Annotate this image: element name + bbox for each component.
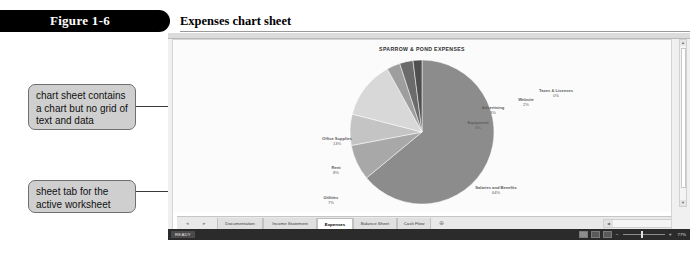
- sheet-tab-strip[interactable]: ◂ ▸ Documentation Income Statement Expen…: [177, 216, 672, 229]
- pie-label-office-supplies: Office Supplies13%: [311, 136, 363, 146]
- zoom-slider-thumb[interactable]: [641, 231, 643, 238]
- sheet-nav-prev-icon[interactable]: ◂: [186, 219, 189, 228]
- horizontal-scrollbar[interactable]: ◀: [603, 219, 672, 228]
- scroll-up-icon[interactable]: ▲: [680, 40, 686, 46]
- excel-window: SPARROW & POND EXPENSES Taxes & Licenses…: [168, 33, 690, 240]
- sheet-tab-documentation[interactable]: Documentation: [217, 218, 263, 229]
- pie-label-rent: Rent8%: [321, 165, 351, 175]
- sheet-tab-balance-sheet[interactable]: Balance Sheet: [353, 218, 397, 229]
- pie-label-advertising: Advertising3%: [473, 105, 513, 115]
- scroll-down-icon[interactable]: ▼: [680, 200, 686, 206]
- callout-chart-sheet: chart sheet contains a chart but no grid…: [28, 84, 136, 130]
- status-bar: READY − + 77%: [168, 229, 690, 240]
- sheet-nav-arrows[interactable]: ◂ ▸: [179, 219, 213, 228]
- normal-view-button[interactable]: [579, 231, 588, 238]
- page-break-view-button[interactable]: [603, 231, 612, 238]
- callout-sheet-tab: sheet tab for the active worksheet: [28, 180, 136, 213]
- chart-plot-region: SPARROW & POND EXPENSES Taxes & Licenses…: [173, 40, 671, 212]
- figure-header: Figure 1-6 Expenses chart sheet: [0, 10, 690, 32]
- zoom-slider[interactable]: [623, 234, 665, 235]
- zoom-out-button[interactable]: −: [615, 229, 620, 240]
- sheet-tab-income-statement[interactable]: Income Statement: [263, 218, 317, 229]
- pie-label-utilities: Utilities7%: [313, 195, 349, 205]
- add-sheet-icon[interactable]: ⊕: [435, 219, 447, 228]
- zoom-in-button[interactable]: +: [668, 229, 673, 240]
- zoom-level-label[interactable]: 77%: [678, 229, 686, 240]
- pie-chart-svg: [173, 40, 671, 212]
- pie-label-equipment: Equipment3%: [458, 120, 498, 130]
- horizontal-scrollbar-left-icon[interactable]: ◀: [604, 220, 613, 227]
- pie-label-website: Website2%: [508, 97, 544, 107]
- status-mode: READY: [171, 231, 195, 238]
- vertical-scrollbar-thumb[interactable]: [681, 48, 686, 188]
- chart-sheet-canvas[interactable]: SPARROW & POND EXPENSES Taxes & Licenses…: [172, 39, 672, 238]
- pie-chart[interactable]: Taxes & Licenses0% Website2% Advertising…: [173, 40, 671, 212]
- figure-caption: Expenses chart sheet: [180, 10, 291, 32]
- vertical-scrollbar[interactable]: ▲ ▼: [679, 39, 687, 207]
- status-bar-right: − + 77%: [579, 229, 686, 240]
- page-layout-view-button[interactable]: [591, 231, 600, 238]
- sheet-nav-next-icon[interactable]: ▸: [203, 219, 206, 228]
- figure-number: Figure 1-6: [0, 10, 160, 32]
- sheet-tab-cash-flow[interactable]: Cash Flow: [397, 218, 431, 229]
- pie-label-salaries-benefits: Salaries and Benefits64%: [467, 185, 525, 195]
- pie-slices: [350, 60, 494, 204]
- figure-divider: [180, 31, 690, 32]
